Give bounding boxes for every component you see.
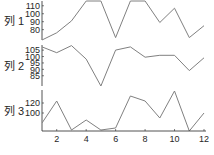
y-tick-label: 120 [25, 98, 40, 108]
y-tick-label: 100 [25, 108, 40, 118]
series-line [42, 91, 204, 131]
subplot-3: 100120列 3 [4, 90, 204, 131]
subplot-2: 859095100105列 2 [4, 45, 204, 86]
subplot-1: 8090100110列 1 [4, 1, 204, 40]
series-line [42, 46, 204, 86]
stacked-line-chart: 8090100110列 1859095100105列 2100120列 3 24… [0, 0, 214, 155]
x-tick-label: 6 [113, 134, 118, 144]
y-tick-label: 110 [26, 1, 40, 11]
x-tick-label: 10 [170, 134, 180, 144]
series-label: 列 1 [4, 14, 24, 27]
x-axis: 24681012 [42, 129, 209, 144]
x-tick-label: 4 [84, 134, 89, 144]
x-tick-label: 8 [143, 134, 148, 144]
x-tick-label: 2 [54, 134, 59, 144]
y-tick-label: 105 [25, 45, 40, 55]
x-tick-label: 12 [199, 134, 209, 144]
series-line [42, 1, 204, 40]
series-label: 列 3 [4, 104, 24, 117]
series-label: 列 2 [4, 59, 24, 72]
